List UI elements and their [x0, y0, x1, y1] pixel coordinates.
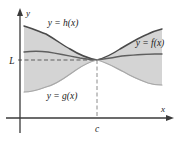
curve-label-g: y = g(x)	[46, 91, 78, 102]
y-axis-label: y	[25, 8, 30, 18]
curve-label-f: y = f(x)	[135, 38, 165, 49]
figure-canvas: y x L c y = h(x) y = f(x) y = g(x)	[0, 0, 184, 142]
limit-value-label: L	[8, 56, 14, 66]
x-axis-label: x	[160, 104, 165, 114]
curve-label-h: y = h(x)	[47, 18, 79, 29]
squeeze-theorem-figure: y x L c y = h(x) y = f(x) y = g(x)	[0, 0, 184, 142]
